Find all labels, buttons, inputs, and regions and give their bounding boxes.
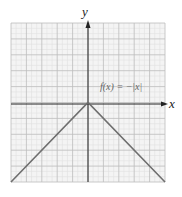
plot-area: [0, 0, 182, 197]
x-axis-label: x: [169, 96, 175, 112]
y-axis-label: y: [82, 4, 88, 20]
function-label: f(x) = −|x|: [100, 81, 142, 92]
